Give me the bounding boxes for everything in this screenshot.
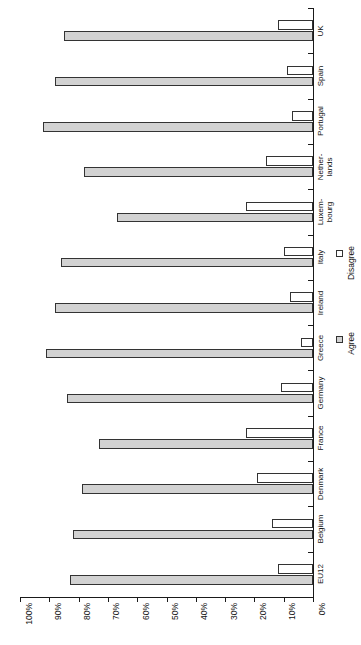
category-label-line: UK <box>317 25 326 36</box>
bar-disagree-ireland <box>290 292 313 302</box>
bar-agree-spain <box>55 77 313 87</box>
value-tick-label: 90% <box>53 603 63 620</box>
category-label-line: Portugal <box>317 106 326 136</box>
legend-swatch-agree <box>336 336 343 343</box>
bar-agree-luxembourg <box>117 213 313 223</box>
bar-agree-ireland <box>55 303 313 313</box>
value-tick-label: 50% <box>170 603 180 620</box>
value-tick-label: 0% <box>317 603 327 615</box>
bar-disagree-spain <box>287 66 313 76</box>
bar-disagree-greece <box>301 338 313 348</box>
category-label: Denmark <box>317 467 326 499</box>
value-tick-label: 80% <box>82 603 92 620</box>
category-tick <box>308 325 313 326</box>
value-tick-label: 10% <box>287 603 297 620</box>
category-label-line: Spain <box>317 66 326 86</box>
category-label: Nether-lands <box>317 153 334 180</box>
bar-agree-belgium <box>73 530 313 540</box>
bar-disagree-france <box>246 428 313 438</box>
category-label: Italy <box>317 250 326 265</box>
value-tick-label: 30% <box>229 603 239 620</box>
value-tick <box>167 597 168 602</box>
category-tick <box>308 552 313 553</box>
value-tick-label: 70% <box>111 603 121 620</box>
category-label-line: Germany <box>317 377 326 410</box>
category-axis-line <box>313 8 314 598</box>
category-label: Ireland <box>317 290 326 314</box>
value-tick <box>108 597 109 602</box>
legend-label-disagree: Disagree <box>346 246 356 280</box>
bar-disagree-portugal <box>292 111 313 121</box>
category-label-line: Belgium <box>317 515 326 544</box>
bar-agree-uk <box>64 31 313 41</box>
category-label: EU12 <box>317 564 326 584</box>
bar-agree-eu12 <box>70 575 313 585</box>
category-label-line: Greece <box>317 335 326 361</box>
bar-disagree-italy <box>284 247 313 257</box>
category-label: Belgium <box>317 515 326 544</box>
category-tick <box>308 506 313 507</box>
category-label-line: bourg <box>326 199 335 226</box>
bar-disagree-luxembourg <box>246 202 313 212</box>
bar-disagree-eu12 <box>278 564 313 574</box>
bar-disagree-denmark <box>257 473 313 483</box>
category-tick <box>308 597 313 598</box>
value-tick-label: 60% <box>141 603 151 620</box>
legend-label-agree: Agree <box>346 332 356 355</box>
category-label: Spain <box>317 66 326 86</box>
value-tick <box>79 597 80 602</box>
value-tick <box>313 597 314 602</box>
value-tick <box>49 597 50 602</box>
value-tick <box>254 597 255 602</box>
category-tick <box>308 99 313 100</box>
category-label-line: Denmark <box>317 467 326 499</box>
category-label-line: lands <box>326 153 335 180</box>
bar-agree-portugal <box>43 122 313 132</box>
category-label: Luxem-bourg <box>317 199 334 226</box>
category-label: UK <box>317 25 326 36</box>
category-label: Germany <box>317 377 326 410</box>
category-tick <box>308 8 313 9</box>
bar-agree-germany <box>67 394 313 404</box>
bar-chart: 100%90%80%70%60%50%40%30%20%10%0% EU12Be… <box>0 0 361 645</box>
value-tick <box>137 597 138 602</box>
category-label: Portugal <box>317 106 326 136</box>
category-label: France <box>317 426 326 451</box>
bar-agree-netherlands <box>84 167 313 177</box>
value-tick-label: 20% <box>258 603 268 620</box>
bar-disagree-uk <box>278 20 313 30</box>
category-tick <box>308 189 313 190</box>
category-label: Greece <box>317 335 326 361</box>
category-label-line: Ireland <box>317 290 326 314</box>
value-tick-label: 40% <box>199 603 209 620</box>
category-tick <box>308 144 313 145</box>
bar-agree-italy <box>61 258 313 268</box>
category-label-line: EU12 <box>317 564 326 584</box>
value-tick <box>196 597 197 602</box>
value-tick <box>20 597 21 602</box>
bar-agree-denmark <box>82 484 313 494</box>
bar-disagree-germany <box>281 383 313 393</box>
category-label-line: France <box>317 426 326 451</box>
bar-disagree-belgium <box>272 519 313 529</box>
value-tick <box>284 597 285 602</box>
category-tick <box>308 53 313 54</box>
value-tick <box>225 597 226 602</box>
bar-agree-france <box>99 439 313 449</box>
category-tick <box>308 416 313 417</box>
bar-disagree-netherlands <box>266 156 313 166</box>
category-label-line: Italy <box>317 250 326 265</box>
legend-swatch-disagree <box>336 250 343 257</box>
category-tick <box>308 461 313 462</box>
category-tick <box>308 280 313 281</box>
category-tick <box>308 370 313 371</box>
category-tick <box>308 235 313 236</box>
value-tick-label: 100% <box>24 603 34 625</box>
bar-agree-greece <box>46 349 313 359</box>
